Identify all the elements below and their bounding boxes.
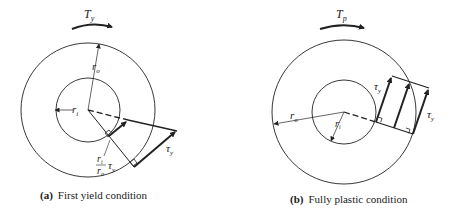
right-angle-mark-inner xyxy=(378,117,382,122)
inner-radius-label: ri xyxy=(335,118,341,130)
outer-radius-arrow xyxy=(88,44,99,110)
caption-a: (a)First yield condition xyxy=(40,189,148,202)
dashed-radius xyxy=(88,110,128,120)
panel-b-fully-plastic: Tp ro ri τy τy (b)Fully plastic conditio… xyxy=(272,7,435,206)
outer-radius-label: ro xyxy=(290,109,298,124)
outer-radius-arrow xyxy=(274,112,344,124)
torque-label-tp: Tp xyxy=(336,7,347,23)
inner-radius-label: ri xyxy=(72,103,78,118)
torque-label-ty: Ty xyxy=(84,7,95,23)
torque-arrow-icon xyxy=(72,24,112,29)
svg-text:ri: ri xyxy=(97,153,103,165)
torque-arrow-icon xyxy=(320,25,364,29)
stress-label-tau-y-top: τy xyxy=(374,80,382,95)
dashed-radius xyxy=(344,112,376,122)
panel-a-first-yield: Ty ro ri τy ri ro τy ( xyxy=(21,7,177,202)
stress-label-tau-y: τy xyxy=(166,142,174,157)
stress-envelope-top xyxy=(392,76,429,88)
stress-arrow-middle xyxy=(394,84,409,128)
caption-b: (b)Fully plastic condition xyxy=(290,193,408,206)
outer-radius-label: ro xyxy=(92,60,100,75)
stress-arrow-inner xyxy=(376,78,391,122)
ratio-leader xyxy=(104,140,110,156)
svg-text:ro: ro xyxy=(97,165,104,177)
stress-label-tau-y-right: τy xyxy=(427,108,435,123)
svg-text:τy: τy xyxy=(108,159,116,174)
stress-arrow-outer xyxy=(413,90,428,134)
torsion-diagram: Ty ro ri τy ri ro τy ( xyxy=(0,0,454,215)
ratio-label: ri ro τy xyxy=(96,153,116,177)
